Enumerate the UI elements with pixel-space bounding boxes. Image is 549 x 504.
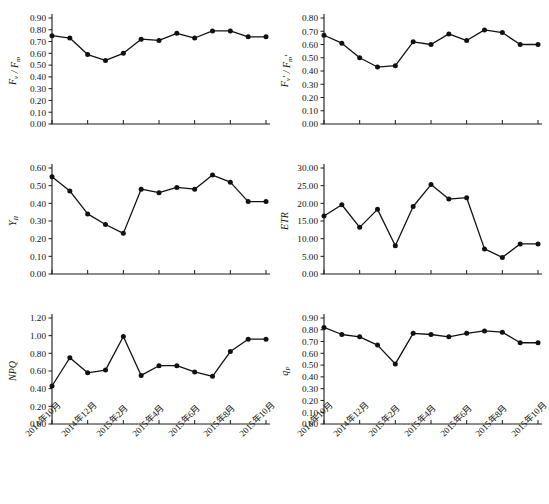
y-tick-label: 0.90	[30, 13, 46, 23]
data-point	[246, 337, 251, 342]
data-point	[482, 246, 487, 251]
y-tick-label: 0.40	[30, 199, 46, 209]
data-point	[536, 340, 541, 345]
y-tick-label: 30.00	[297, 163, 318, 173]
data-point	[429, 42, 434, 47]
chart-panel-top-right: 0.000.100.200.300.400.500.600.700.80Fv' …	[272, 2, 544, 152]
data-point	[121, 51, 126, 56]
data-point	[67, 188, 72, 193]
y-axis-title: NPQ	[7, 360, 18, 382]
data-point	[246, 199, 251, 204]
data-point	[500, 30, 505, 35]
data-point	[246, 34, 251, 39]
y-tick-label: 0.20	[30, 96, 46, 106]
data-point	[464, 195, 469, 200]
data-point	[357, 225, 362, 230]
data-point	[446, 31, 451, 36]
data-point	[174, 185, 179, 190]
data-point	[210, 173, 215, 178]
y-tick-label: 0.10	[302, 106, 318, 116]
y-tick-label: 0.60	[302, 40, 318, 50]
y-tick-label: 0.00	[302, 269, 318, 279]
data-point	[139, 37, 144, 42]
data-point	[157, 38, 162, 43]
data-point	[210, 374, 215, 379]
data-point	[464, 331, 469, 336]
y-tick-label: 0.30	[30, 216, 46, 226]
data-point	[393, 361, 398, 366]
data-point	[482, 328, 487, 333]
y-tick-label: 0.70	[30, 37, 46, 47]
x-axis-tick-labels: 2014年10月2014年12月2015年2月2015年4月2015年6月201…	[272, 428, 544, 492]
data-point	[375, 207, 380, 212]
data-point	[536, 42, 541, 47]
y-tick-label: 0.40	[30, 72, 46, 82]
data-point	[85, 370, 90, 375]
data-point	[121, 231, 126, 236]
data-point	[339, 202, 344, 207]
x-axis-tick-labels: 2014年10月2014年12月2015年2月2015年4月2015年6月201…	[0, 428, 272, 492]
chart-panel-top-left: 0.000.100.200.300.400.500.600.700.800.90…	[0, 2, 272, 152]
y-tick-label: 0.70	[302, 337, 318, 347]
y-tick-label: 0.30	[302, 384, 318, 394]
y-tick-label: 0.20	[302, 396, 318, 406]
y-tick-label: 15.00	[297, 216, 318, 226]
data-point	[85, 52, 90, 57]
chart-panel-middle-left: 0.000.100.200.300.400.500.60YII	[0, 152, 272, 302]
y-tick-label: 0.50	[302, 53, 318, 63]
data-point	[192, 369, 197, 374]
data-point	[174, 363, 179, 368]
data-point	[464, 38, 469, 43]
data-point	[429, 182, 434, 187]
data-point	[322, 214, 327, 219]
y-tick-label: 0.60	[30, 366, 46, 376]
y-tick-label: 0.30	[302, 80, 318, 90]
data-point	[50, 33, 55, 38]
y-tick-label: 0.40	[30, 384, 46, 394]
data-point	[322, 325, 327, 330]
data-point	[264, 34, 269, 39]
y-tick-label: 0.70	[302, 27, 318, 37]
y-tick-label: 0.30	[30, 84, 46, 94]
y-tick-label: 0.80	[30, 349, 46, 359]
y-tick-label: 10.00	[297, 234, 318, 244]
y-tick-label: 0.10	[30, 108, 46, 118]
series-line	[324, 185, 538, 258]
chart-panel-middle-right: 0.005.0010.0015.0020.0025.0030.00ETR	[272, 152, 544, 302]
y-tick-label: 1.00	[30, 331, 46, 341]
y-axis-title: qP	[279, 366, 292, 376]
y-axis-title: ETR	[279, 212, 290, 231]
data-point	[67, 355, 72, 360]
data-point	[85, 211, 90, 216]
data-point	[429, 332, 434, 337]
y-tick-label: 0.50	[30, 60, 46, 70]
data-point	[228, 180, 233, 185]
data-point	[500, 255, 505, 260]
data-point	[103, 58, 108, 63]
y-tick-label: 0.00	[30, 119, 46, 129]
y-tick-label: 0.90	[302, 313, 318, 323]
data-point	[411, 331, 416, 336]
series-line	[52, 31, 266, 60]
y-axis-title: Fv' / Fm'	[279, 54, 294, 88]
y-tick-label: 25.00	[297, 181, 318, 191]
series-line	[52, 337, 266, 386]
y-tick-label: 0.40	[302, 66, 318, 76]
y-tick-label: 0.00	[30, 269, 46, 279]
y-tick-label: 0.80	[302, 325, 318, 335]
data-point	[446, 197, 451, 202]
data-point	[375, 65, 380, 70]
data-point	[393, 63, 398, 68]
data-point	[157, 363, 162, 368]
y-tick-label: 0.00	[302, 119, 318, 129]
data-point	[264, 337, 269, 342]
data-point	[228, 28, 233, 33]
y-tick-label: 0.20	[302, 93, 318, 103]
data-point	[139, 373, 144, 378]
data-point	[518, 42, 523, 47]
data-point	[192, 187, 197, 192]
data-point	[339, 332, 344, 337]
data-point	[103, 368, 108, 373]
data-point	[536, 241, 541, 246]
y-tick-label: 0.50	[30, 181, 46, 191]
